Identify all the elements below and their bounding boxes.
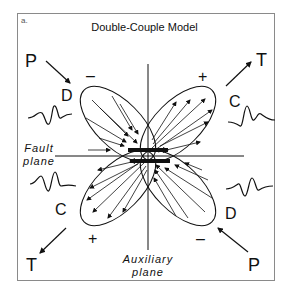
label-c-lower-left: C bbox=[55, 202, 67, 218]
auxiliary-plane-label: Auxiliary plane bbox=[118, 253, 178, 279]
polarity-plus-upper-right: + bbox=[198, 69, 207, 85]
auxiliary-plane-label-line2: plane bbox=[118, 266, 178, 279]
label-t-bottom-left: T bbox=[26, 256, 37, 274]
waveform-compression-lower-left bbox=[30, 172, 76, 191]
polarity-minus-upper-left: – bbox=[86, 68, 95, 84]
fault-plane-label-line1: Fault bbox=[20, 142, 58, 155]
p-arrow-bottom-right bbox=[218, 228, 248, 252]
label-d-lower-right: D bbox=[225, 206, 237, 222]
p-arrow-top-left bbox=[46, 61, 70, 83]
auxiliary-plane-label-line1: Auxiliary bbox=[118, 253, 178, 266]
label-d-upper-left: D bbox=[61, 88, 73, 104]
t-arrow-top-right bbox=[226, 62, 251, 86]
waveform-dilatation-upper-left bbox=[28, 106, 72, 124]
polarity-plus-lower-left: + bbox=[88, 231, 97, 247]
waveform-dilatation-lower-right bbox=[226, 178, 273, 196]
polarity-minus-lower-right: – bbox=[196, 231, 205, 247]
label-p-top-left: P bbox=[25, 52, 37, 70]
fault-plane-label-line2: plane bbox=[20, 155, 58, 168]
t-arrow-bottom-left bbox=[40, 228, 66, 253]
label-c-upper-right: C bbox=[229, 94, 241, 110]
label-t-top-right: T bbox=[256, 51, 267, 69]
label-p-bottom-right: P bbox=[248, 256, 260, 274]
fault-plane-label: Fault plane bbox=[20, 142, 58, 168]
